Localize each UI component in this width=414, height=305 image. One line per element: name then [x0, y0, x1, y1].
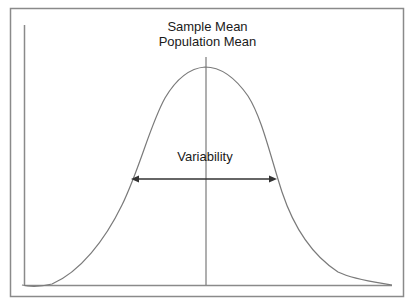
variability-arrow [131, 176, 277, 183]
mean-labels: Sample Mean Population Mean [150, 19, 265, 49]
sample-mean-label: Sample Mean [150, 19, 265, 34]
population-mean-label: Population Mean [150, 34, 265, 49]
variability-label: Variability [160, 149, 250, 164]
bell-curve [22, 67, 392, 286]
arrowhead-right-icon [269, 176, 277, 183]
